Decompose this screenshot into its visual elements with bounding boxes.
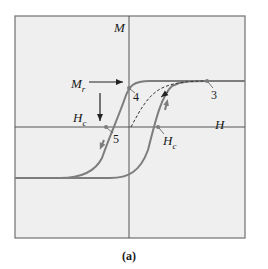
point-3-label: 3 bbox=[211, 89, 217, 101]
mr-sub: r bbox=[82, 84, 86, 94]
mr-label: Mr bbox=[71, 77, 85, 94]
h-axis-label: H bbox=[215, 118, 224, 131]
hc-left-sub: c bbox=[82, 118, 86, 128]
point-5-label: 5 bbox=[113, 133, 119, 145]
hysteresis-diagram bbox=[0, 0, 268, 269]
figure-caption: (a) bbox=[122, 250, 136, 262]
hc-right-sub: c bbox=[172, 141, 176, 151]
hc-right-label: Hc bbox=[163, 134, 176, 151]
hc-left-main: H bbox=[73, 110, 82, 125]
point-4-label: 4 bbox=[133, 91, 139, 103]
hc-left-label: Hc bbox=[73, 111, 86, 128]
hc-right-main: H bbox=[163, 133, 172, 148]
mr-main: M bbox=[71, 76, 82, 91]
m-axis-label: M bbox=[114, 21, 125, 34]
